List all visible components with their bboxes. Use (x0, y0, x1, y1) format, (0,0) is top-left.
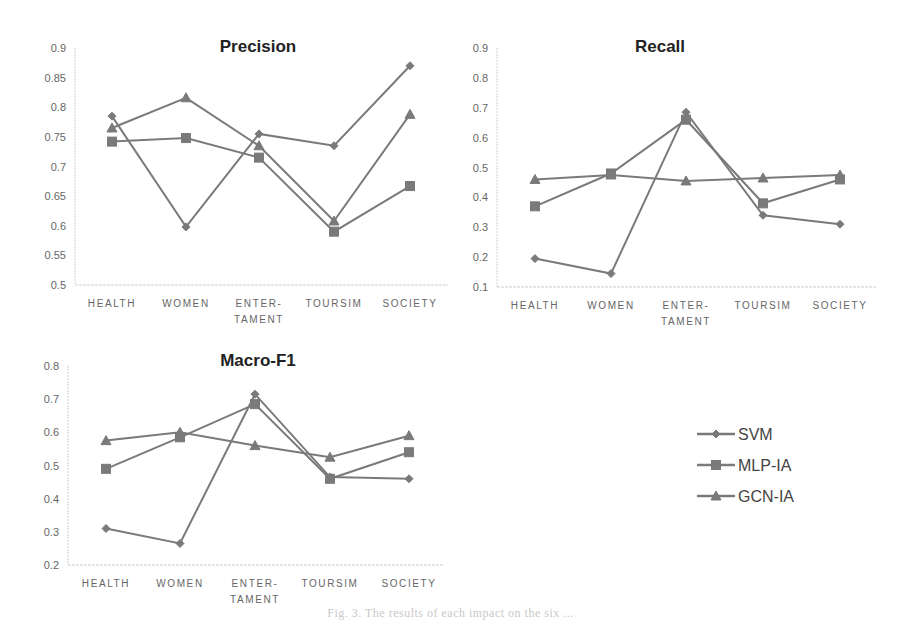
square-marker-icon (102, 464, 111, 473)
triangle-marker-icon (404, 431, 414, 440)
chart-title: Macro-F1 (220, 351, 296, 370)
y-tick-label: 0.75 (45, 131, 66, 143)
chart-figure: 0.50.550.60.650.70.750.80.850.9HEALTHWOM… (0, 0, 901, 625)
diamond-marker-icon (531, 255, 539, 263)
y-tick-label: 0.8 (473, 72, 488, 84)
square-marker-icon (531, 202, 540, 211)
legend-label: GCN-IA (738, 488, 794, 505)
diamond-marker-icon (102, 525, 110, 533)
x-tick-label: WOMEN (162, 298, 209, 309)
square-marker-icon (405, 448, 414, 457)
series-line (106, 404, 409, 479)
series-gcn-ia (101, 427, 414, 461)
chart-title: Recall (635, 37, 685, 56)
x-tick-label: TAMENT (661, 316, 711, 327)
series-svm (102, 390, 413, 547)
recall-chart: 0.10.20.30.40.50.60.70.80.9HEALTHWOMENEN… (473, 37, 877, 327)
legend-label: MLP-IA (738, 457, 792, 474)
y-tick-label: 0.8 (51, 101, 66, 113)
y-tick-label: 0.65 (45, 190, 66, 202)
series-mlp-ia (531, 115, 845, 211)
x-tick-label: SOCIETY (382, 298, 437, 309)
square-marker-icon (326, 474, 335, 483)
x-tick-label: TOURSIM (301, 578, 358, 589)
legend-item-mlp-ia: MLP-IA (697, 457, 792, 474)
series-line (106, 394, 409, 543)
triangle-marker-icon (181, 93, 191, 102)
x-tick-label: TOURSIM (305, 298, 362, 309)
y-tick-label: 0.5 (473, 162, 488, 174)
y-tick-label: 0.8 (44, 360, 59, 372)
x-tick-label: WOMEN (587, 300, 634, 311)
y-tick-label: 0.4 (44, 493, 59, 505)
diamond-marker-icon (712, 430, 720, 438)
square-marker-icon (255, 153, 264, 162)
legend-item-svm: SVM (697, 426, 773, 443)
square-marker-icon (759, 199, 768, 208)
legend: SVMMLP-IAGCN-IA (697, 426, 794, 505)
x-tick-label: WOMEN (156, 578, 203, 589)
triangle-marker-icon (254, 141, 264, 150)
y-tick-label: 0.7 (473, 102, 488, 114)
y-tick-label: 0.85 (45, 72, 66, 84)
series-mlp-ia (102, 400, 414, 484)
y-tick-label: 0.7 (51, 161, 66, 173)
square-marker-icon (251, 400, 260, 409)
series-line (535, 120, 840, 207)
x-tick-label: TAMENT (234, 314, 284, 325)
legend-item-gcn-ia: GCN-IA (697, 488, 794, 505)
x-tick-label: HEALTH (88, 298, 136, 309)
square-marker-icon (712, 461, 721, 470)
x-tick-label: TAMENT (230, 594, 280, 605)
triangle-marker-icon (405, 109, 415, 118)
x-tick-label: TOURSIM (734, 300, 791, 311)
y-tick-label: 0.2 (473, 251, 488, 263)
series-line (112, 138, 410, 232)
legend-label: SVM (738, 426, 773, 443)
diamond-marker-icon (607, 270, 615, 278)
chart-title: Precision (220, 37, 297, 56)
y-tick-label: 0.1 (473, 281, 488, 293)
precision-chart: 0.50.550.60.650.70.750.80.850.9HEALTHWOM… (45, 37, 448, 325)
y-tick-label: 0.3 (473, 221, 488, 233)
series-gcn-ia (530, 170, 845, 185)
y-tick-label: 0.2 (44, 559, 59, 571)
y-tick-label: 0.5 (51, 279, 66, 291)
macro-f1-chart: 0.20.30.40.50.60.70.8HEALTHWOMENENTER-TA… (44, 351, 443, 605)
y-tick-label: 0.55 (45, 249, 66, 261)
x-tick-label: SOCIETY (812, 300, 867, 311)
x-tick-label: ENTER- (236, 298, 283, 309)
diamond-marker-icon (836, 220, 844, 228)
y-tick-label: 0.9 (51, 42, 66, 54)
y-tick-label: 0.3 (44, 526, 59, 538)
y-tick-label: 0.5 (44, 460, 59, 472)
figure-caption: Fig. 3. The results of each impact on th… (0, 606, 901, 621)
diamond-marker-icon (176, 539, 184, 547)
square-marker-icon (182, 134, 191, 143)
x-tick-label: HEALTH (82, 578, 130, 589)
square-marker-icon (406, 182, 415, 191)
x-tick-label: ENTER- (663, 300, 710, 311)
y-tick-label: 0.9 (473, 42, 488, 54)
y-tick-label: 0.6 (473, 132, 488, 144)
y-tick-label: 0.7 (44, 393, 59, 405)
square-marker-icon (108, 137, 117, 146)
x-tick-label: ENTER- (232, 578, 279, 589)
y-tick-label: 0.6 (51, 220, 66, 232)
x-tick-label: HEALTH (511, 300, 559, 311)
diamond-marker-icon (405, 475, 413, 483)
square-marker-icon (330, 227, 339, 236)
square-marker-icon (682, 115, 691, 124)
y-tick-label: 0.4 (473, 191, 488, 203)
x-tick-label: SOCIETY (381, 578, 436, 589)
y-tick-label: 0.6 (44, 426, 59, 438)
